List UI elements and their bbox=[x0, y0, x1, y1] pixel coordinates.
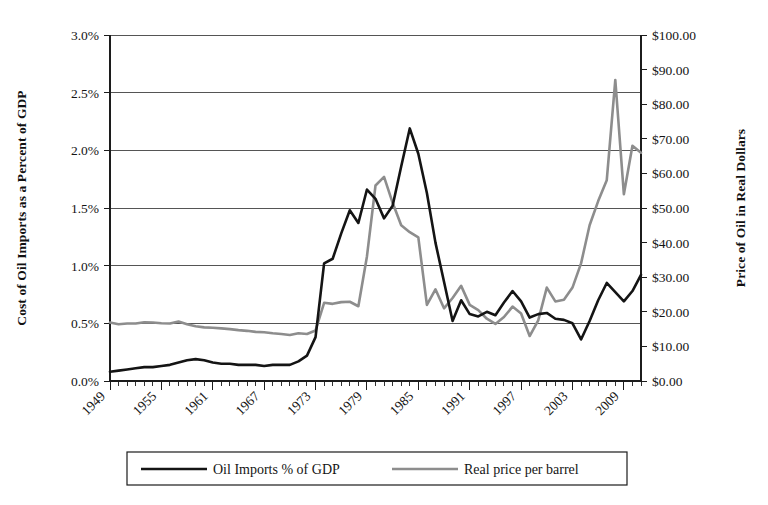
left-axis-tick-label: 1.5% bbox=[71, 201, 99, 216]
left-axis-tick-label: 1.0% bbox=[71, 259, 99, 274]
right-axis-tick-label: $10.00 bbox=[652, 339, 689, 354]
legend: Oil Imports % of GDP Real price per barr… bbox=[127, 452, 627, 485]
left-axis-tick-label: 0.0% bbox=[71, 374, 99, 389]
left-axis-tick-label: 3.0% bbox=[71, 28, 99, 43]
right-axis-tick-label: $50.00 bbox=[652, 201, 689, 216]
left-axis-title: Cost of Oil Imports as a Percent of GDP bbox=[14, 90, 29, 325]
right-axis-tick-label: $0.00 bbox=[652, 374, 683, 389]
legend-label-oil-imports: Oil Imports % of GDP bbox=[213, 462, 340, 477]
right-axis-tick-label: $40.00 bbox=[652, 236, 689, 251]
left-axis-tick-label: 0.5% bbox=[71, 316, 99, 331]
right-axis-title: Price of Oil in Real Dollars bbox=[733, 129, 748, 287]
right-axis-tick-label: $20.00 bbox=[652, 305, 689, 320]
right-axis-tick-label: $60.00 bbox=[652, 166, 689, 181]
right-axis-tick-label: $90.00 bbox=[652, 63, 689, 78]
left-axis-tick-label: 2.0% bbox=[71, 143, 99, 158]
right-axis-tick-label: $70.00 bbox=[652, 132, 689, 147]
right-axis-tick-label: $30.00 bbox=[652, 270, 689, 285]
right-axis-tick-label: $80.00 bbox=[652, 97, 689, 112]
right-axis-tick-label: $100.00 bbox=[652, 28, 696, 43]
legend-label-real-price: Real price per barrel bbox=[464, 462, 579, 477]
left-axis-tick-label: 2.5% bbox=[71, 86, 99, 101]
oil-imports-chart: 0.0%0.5%1.0%1.5%2.0%2.5%3.0% $0.00$10.00… bbox=[0, 0, 768, 505]
